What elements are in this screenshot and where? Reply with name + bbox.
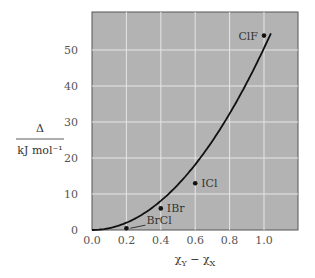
x-tick: 0.8 xyxy=(221,234,239,247)
y-axis-label-top: Δ xyxy=(36,122,44,135)
y-tick: 30 xyxy=(64,116,78,129)
y-tick: 50 xyxy=(64,44,78,57)
y-tick-labels: 01020304050 xyxy=(64,44,78,237)
y-axis-label-bottom: kJ mol⁻¹ xyxy=(17,144,62,157)
x-axis-label: χY − χX xyxy=(175,253,216,268)
x-tick: 0.0 xyxy=(83,234,101,247)
x-tick-labels: 0.00.20.40.60.81.0 xyxy=(83,234,273,247)
point-label: ICl xyxy=(201,177,218,190)
x-tick: 0.2 xyxy=(118,234,136,247)
point-label: IBr xyxy=(167,202,185,215)
y-tick: 40 xyxy=(64,80,78,93)
data-point xyxy=(124,226,129,231)
point-label: ClF xyxy=(238,30,258,43)
chart: 01020304050 0.00.20.40.60.81.0 BrClIBrIC… xyxy=(0,0,315,278)
y-tick: 20 xyxy=(64,152,78,165)
data-point xyxy=(159,206,164,211)
x-tick: 0.4 xyxy=(152,234,170,247)
y-tick: 10 xyxy=(64,188,78,201)
point-label: BrCl xyxy=(146,214,172,227)
x-tick: 0.6 xyxy=(186,234,204,247)
y-tick: 0 xyxy=(71,224,78,237)
data-point xyxy=(193,181,198,186)
x-tick: 1.0 xyxy=(255,234,273,247)
data-point xyxy=(262,33,267,38)
